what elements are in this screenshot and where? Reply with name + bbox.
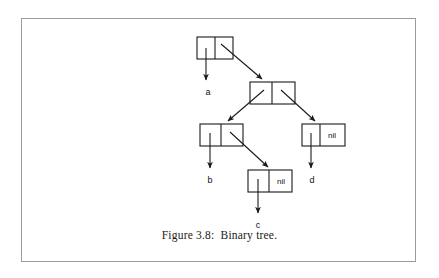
- link-node3-right-to-node-c: [230, 132, 268, 167]
- tree-node-c: nil: [248, 170, 292, 192]
- figure-container: nil nil a b c d Figure 3.8: Binary tree.: [0, 0, 439, 278]
- leaf-label-a: a: [205, 87, 210, 97]
- link-node2-right-to-node-d: [281, 90, 315, 121]
- figure-caption: Figure 3.8: Binary tree.: [0, 229, 439, 241]
- tree-node-d: nil: [302, 124, 345, 146]
- nil-label-right: nil: [328, 131, 336, 140]
- nil-label-bottom: nil: [277, 177, 285, 186]
- tree-node-3: [200, 124, 243, 146]
- tree-node-root: [197, 37, 233, 59]
- leaf-label-b: b: [207, 175, 212, 185]
- link-node2-left-to-node3: [228, 90, 264, 121]
- leaf-label-d: d: [309, 175, 314, 185]
- link-root-right-to-node2: [221, 44, 262, 79]
- tree-node-2: [250, 82, 295, 104]
